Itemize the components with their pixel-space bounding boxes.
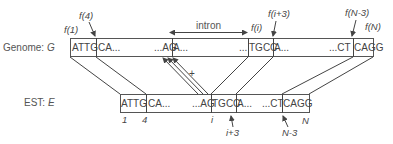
est-pos-4: 4: [142, 114, 147, 125]
est-seg-cagg: CAGG: [283, 98, 313, 109]
genome-seg-cagg: CAGG: [354, 42, 384, 53]
marker-fn: f(N): [365, 21, 381, 32]
connector-1: [70, 57, 120, 94]
genome-seg-dots: ...: [239, 42, 247, 53]
marker-fi3-arrow: [273, 21, 276, 36]
est-pos-n3: N-3: [282, 127, 298, 138]
est-label: EST: E: [24, 97, 55, 108]
genome-seg-attg: ATTG: [72, 42, 98, 53]
alignment-diagram: Genome: G ATTG CA... ...AG A... ... TGCC…: [0, 0, 393, 144]
marker-fi3: f(i+3): [268, 8, 290, 19]
est-seg-attg: ATTG: [121, 98, 147, 109]
connector-i: [211, 57, 248, 94]
genome-seg-ca: CA...: [98, 42, 120, 53]
connector-n3: [282, 57, 353, 94]
est-seg-ca: CA...: [148, 98, 170, 109]
alt-arrow-2: [168, 58, 203, 94]
connector-4: [96, 57, 146, 94]
genome-seg-ct: ...CT: [329, 42, 351, 53]
connector-n: [309, 57, 373, 94]
marker-fi: f(i): [251, 22, 262, 33]
intron-label: intron: [196, 20, 221, 31]
est-pos-n: N: [302, 115, 309, 126]
mismatch-mark: +: [189, 68, 195, 79]
marker-f4: f(4): [79, 10, 93, 21]
genome-seg-a: A...: [173, 42, 188, 53]
est-pos-n3-arrow: [283, 116, 288, 127]
est-seg-ct: ...CT: [262, 98, 284, 109]
marker-f4-arrow: [89, 22, 95, 36]
genome-seg-a2: A...: [274, 42, 289, 53]
marker-fn3-arrow: [352, 20, 356, 36]
est-seg-a: A...: [237, 98, 252, 109]
est-pos-i: i: [211, 114, 214, 125]
genome-label: Genome: G: [3, 42, 55, 53]
marker-f1: f(1): [64, 24, 78, 35]
connector-i3: [236, 57, 273, 94]
est-pos-1: 1: [122, 114, 127, 125]
est-pos-i3-arrow: [231, 116, 233, 127]
est-pos-i3: i+3: [226, 127, 240, 138]
marker-fn3: f(N-3): [345, 7, 369, 18]
